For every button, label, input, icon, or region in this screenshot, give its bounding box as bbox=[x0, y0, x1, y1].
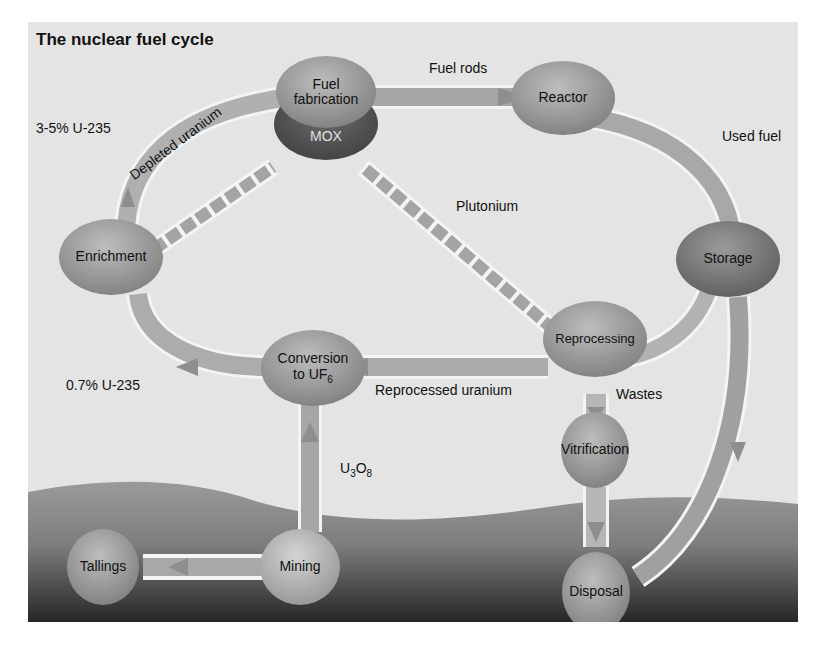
node-storage: Storage bbox=[676, 239, 780, 279]
node-fuel-fabrication: Fuelfabrication bbox=[276, 62, 376, 122]
node-label: to UF6 bbox=[278, 367, 349, 385]
label-fuel-rods: Fuel rods bbox=[429, 60, 487, 76]
label-natural: 0.7% U-235 bbox=[66, 377, 140, 393]
node-label: Conversion bbox=[278, 351, 349, 366]
label-enriched: 3-5% U-235 bbox=[36, 120, 111, 136]
node-mox: MOX bbox=[276, 122, 376, 152]
label-wastes: Wastes bbox=[616, 386, 662, 402]
label-used-fuel: Used fuel bbox=[722, 128, 781, 144]
node-reprocessing: Reprocessing bbox=[543, 319, 647, 359]
node-vitrification: Vitrification bbox=[553, 430, 637, 470]
label-u3o8: U3O8 bbox=[340, 460, 372, 479]
nuclear-fuel-cycle-diagram: The nuclear fuel cycle Fuelfabrication M… bbox=[28, 22, 798, 622]
node-reactor: Reactor bbox=[511, 78, 615, 118]
diagram-title: The nuclear fuel cycle bbox=[36, 30, 214, 50]
label-reprocessed-uranium: Reprocessed uranium bbox=[375, 382, 512, 398]
node-mining: Mining bbox=[260, 547, 340, 587]
node-conversion-to-uf6: Conversionto UF6 bbox=[261, 338, 365, 398]
node-label: Fuel bbox=[294, 77, 359, 92]
node-tailings: Tallings bbox=[63, 547, 143, 587]
label-plutonium: Plutonium bbox=[456, 198, 518, 214]
node-disposal: Disposal bbox=[556, 572, 636, 612]
diagram-graphics bbox=[28, 22, 798, 622]
node-enrichment: Enrichment bbox=[59, 237, 163, 277]
node-label: fabrication bbox=[294, 92, 359, 107]
